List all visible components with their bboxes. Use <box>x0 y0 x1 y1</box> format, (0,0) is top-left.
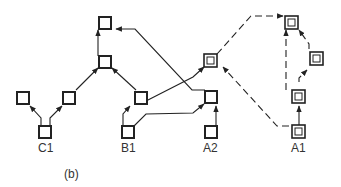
label-b1: B1 <box>121 142 136 154</box>
node-b1-upper <box>135 92 147 104</box>
edge-b1-to-a2upper <box>134 104 204 126</box>
edge-right-to-mid <box>76 68 98 90</box>
edge-a1mid-to-a1right <box>299 70 307 82</box>
node-a2-upper <box>205 91 217 103</box>
node-c1 <box>39 126 51 138</box>
node-a1-mid <box>292 90 305 103</box>
node-a1-right <box>310 52 323 65</box>
node-a1-top <box>285 16 298 29</box>
node-a2-double <box>204 54 217 67</box>
node-b1 <box>122 126 134 138</box>
node-a1 <box>292 125 305 138</box>
edge-upper-to-mid <box>112 68 136 90</box>
label-c1: C1 <box>38 142 53 154</box>
edge-a1-to-a2double <box>223 67 289 126</box>
figure-caption: (b) <box>64 168 79 180</box>
edge-a1right-to-a1top <box>299 30 309 49</box>
node-c1-right <box>63 92 75 104</box>
edge-a2upper-to-top <box>116 29 205 90</box>
label-a1: A1 <box>291 142 306 154</box>
node-mid <box>99 56 111 68</box>
node-c1-left <box>17 92 29 104</box>
node-top <box>99 17 111 29</box>
edge-c1-to-right <box>50 106 62 126</box>
graph-diagram <box>0 0 341 187</box>
edge-c1-to-left <box>30 106 41 126</box>
edge-a2double-to-a1top <box>217 16 283 54</box>
edge-b1-to-upper <box>123 106 130 126</box>
label-a2: A2 <box>203 142 218 154</box>
node-a2 <box>205 126 217 138</box>
